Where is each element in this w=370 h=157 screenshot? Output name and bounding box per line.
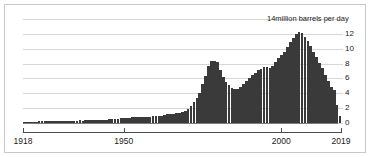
y-axis-tick-dash — [338, 108, 343, 109]
x-axis-tick — [23, 128, 24, 133]
y-axis-tick-dash — [338, 93, 343, 94]
x-axis-tick-label: 2000 — [272, 137, 291, 146]
bar-series — [23, 19, 341, 123]
unit-label: 14million barrels per day — [267, 15, 349, 23]
unit-label-dash — [253, 19, 265, 20]
plot-area — [23, 19, 341, 123]
x-axis-tick-label: 1918 — [14, 137, 33, 146]
x-axis-tick-label: 2019 — [332, 137, 351, 146]
x-axis-tick — [341, 128, 342, 133]
x-axis-tick — [281, 128, 282, 133]
y-axis-tick-dash — [338, 123, 343, 124]
y-axis-tick-label: 2 — [345, 104, 349, 112]
y-axis-tick-label: 0 — [345, 119, 349, 127]
y-axis-tick-dash — [338, 78, 343, 79]
x-axis-line — [23, 132, 341, 133]
gridline-0 — [23, 123, 341, 124]
chart-frame: 121086420 14million barrels per day 1918… — [4, 4, 366, 153]
y-axis-tick-label: 10 — [345, 45, 354, 53]
x-axis-tick — [124, 128, 125, 133]
y-axis-tick-dash — [338, 34, 343, 35]
y-axis-tick-label: 6 — [345, 74, 349, 82]
x-axis-tick-label: 1950 — [114, 137, 133, 146]
y-axis-tick-dash — [338, 49, 343, 50]
y-axis-tick-label: 12 — [345, 30, 354, 38]
y-axis-tick-label: 4 — [345, 89, 349, 97]
bar — [339, 116, 342, 123]
chart-figure: 121086420 14million barrels per day 1918… — [0, 0, 370, 157]
y-axis-tick-label: 8 — [345, 60, 349, 68]
y-axis-tick-dash — [338, 64, 343, 65]
